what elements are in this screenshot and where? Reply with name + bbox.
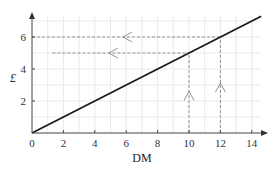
y-tick-label: 6 (21, 31, 27, 43)
exchange-rate-chart: 02468101214 246 DM £ (0, 0, 275, 172)
x-tick-label: 6 (123, 137, 129, 149)
y-tick-labels: 246 (21, 31, 36, 107)
y-tick-label: 4 (21, 63, 27, 75)
data-line (32, 16, 261, 133)
x-tick-label: 14 (246, 137, 258, 149)
y-axis-arrow-icon (29, 12, 35, 19)
x-tick-label: 4 (92, 137, 98, 149)
x-tick-label: 10 (184, 137, 196, 149)
x-tick-label: 2 (61, 137, 67, 149)
x-tick-label: 8 (155, 137, 161, 149)
x-axis-label: DM (132, 151, 152, 165)
y-axis-label: £ (10, 71, 16, 85)
x-axis-arrow-icon (261, 130, 268, 136)
x-tick-label: 12 (215, 137, 226, 149)
x-tick-label: 0 (29, 137, 35, 149)
y-tick-label: 2 (21, 95, 27, 107)
